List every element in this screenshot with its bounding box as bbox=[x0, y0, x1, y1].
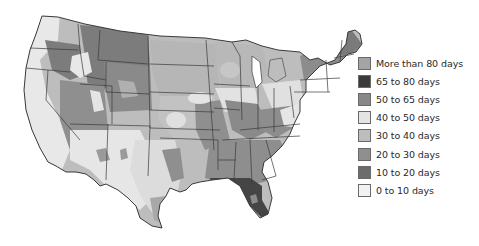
legend-item-50-to-65: 50 to 65 days bbox=[358, 90, 463, 108]
legend-label: 10 to 20 days bbox=[376, 167, 440, 178]
legend-swatch bbox=[358, 148, 371, 161]
legend-swatch bbox=[358, 129, 371, 142]
legend-swatch bbox=[358, 57, 371, 70]
legend-item-65-to-80: 65 to 80 days bbox=[358, 72, 463, 90]
legend-label: More than 80 days bbox=[376, 58, 463, 69]
legend-item-more-than-80: More than 80 days bbox=[358, 54, 463, 72]
legend-label: 40 to 50 days bbox=[376, 112, 440, 123]
map-legend: More than 80 days 65 to 80 days 50 to 65… bbox=[358, 54, 463, 200]
legend-label: 0 to 10 days bbox=[376, 185, 434, 196]
legend-label: 50 to 65 days bbox=[376, 94, 440, 105]
legend-swatch bbox=[358, 75, 371, 88]
legend-swatch bbox=[358, 93, 371, 106]
legend-item-20-to-30: 20 to 30 days bbox=[358, 145, 463, 163]
legend-label: 20 to 30 days bbox=[376, 149, 440, 160]
legend-item-30-to-40: 30 to 40 days bbox=[358, 127, 463, 145]
legend-item-10-to-20: 10 to 20 days bbox=[358, 163, 463, 181]
legend-label: 30 to 40 days bbox=[376, 130, 440, 141]
legend-swatch bbox=[358, 184, 371, 197]
legend-swatch bbox=[358, 111, 371, 124]
legend-item-40-to-50: 40 to 50 days bbox=[358, 109, 463, 127]
legend-label: 65 to 80 days bbox=[376, 76, 440, 87]
legend-item-0-to-10: 0 to 10 days bbox=[358, 181, 463, 199]
legend-swatch bbox=[358, 166, 371, 179]
